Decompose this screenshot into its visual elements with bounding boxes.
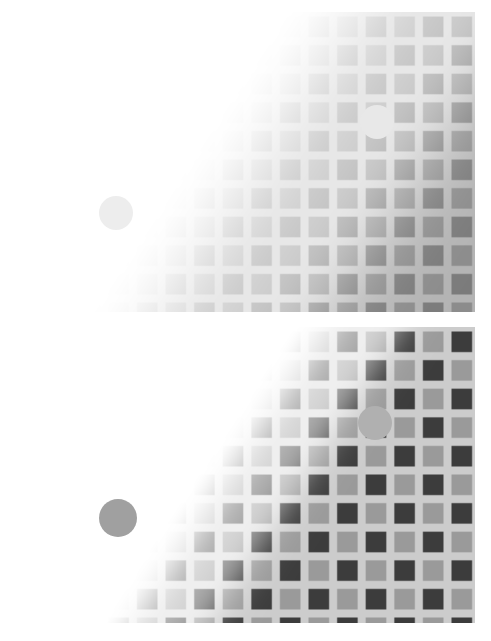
- panel-top: [18, 12, 475, 312]
- illusion-figure: [0, 0, 491, 641]
- panel-top-canvas: [18, 12, 475, 312]
- panel-bottom: [18, 327, 475, 623]
- panel-bottom-canvas: [18, 327, 475, 623]
